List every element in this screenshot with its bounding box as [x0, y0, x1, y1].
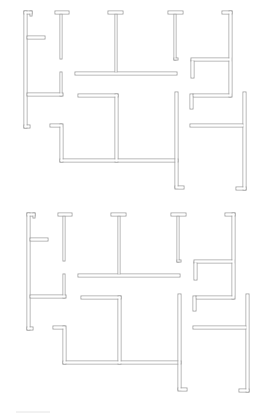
wall-far-right — [190, 92, 246, 190]
wall-far-right — [193, 294, 249, 392]
wall-tee-2 — [75, 11, 177, 75]
wall-left-stub — [27, 36, 45, 39]
wall-tee-1 — [55, 11, 69, 59]
wall-left-stub — [30, 238, 48, 241]
wall-tee-1 — [58, 213, 72, 261]
floor-plan-top — [24, 11, 246, 190]
wall-tee-3 — [168, 11, 183, 60]
wall-tee-2 — [78, 213, 180, 277]
floor-plan-canvas — [0, 0, 268, 414]
wall-left-wall — [24, 11, 32, 128]
wall-right-top — [190, 11, 232, 109]
wall-tee-1-lower — [27, 72, 63, 96]
wall-center-right — [178, 294, 187, 391]
wall-right-top — [193, 213, 235, 311]
wall-center-room — [53, 296, 181, 364]
wall-tee-1-lower — [30, 274, 66, 298]
wall-left-wall — [27, 213, 35, 330]
wall-center-room — [50, 94, 178, 162]
wall-tee-3 — [171, 213, 186, 262]
wall-center-right — [175, 92, 184, 189]
floor-plan-bottom — [27, 213, 249, 392]
